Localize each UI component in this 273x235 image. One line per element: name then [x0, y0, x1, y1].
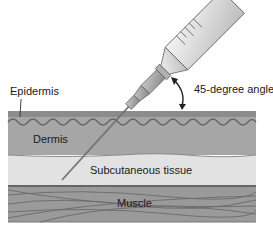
syringe [117, 0, 244, 118]
label-epidermis: Epidermis [10, 86, 59, 97]
label-angle: 45-degree angle [194, 84, 273, 95]
label-dermis: Dermis [33, 134, 68, 145]
label-muscle: Muscle [117, 198, 152, 209]
angle-arrow [171, 77, 186, 110]
label-subcutaneous-tissue: Subcutaneous tissue [90, 165, 192, 176]
